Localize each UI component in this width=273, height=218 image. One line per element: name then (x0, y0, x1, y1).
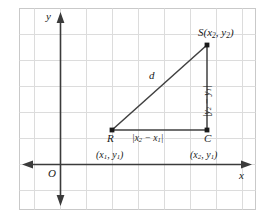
point-C-close: ) (214, 149, 217, 160)
hypotenuse-label-d: d (149, 70, 155, 81)
v-minus: − (202, 96, 212, 107)
point-label-S: S(x2, y2) (198, 27, 234, 39)
point-C-coords: (x2, y1) (190, 150, 217, 161)
v-y2: y (202, 110, 212, 114)
h-minus: − (142, 133, 153, 143)
y-axis-label: y (46, 11, 51, 22)
v-y1: y (202, 92, 212, 96)
v-y2-sub: 2 (205, 107, 212, 110)
point-label-C: C (204, 133, 211, 144)
v-bar-open: | (202, 114, 212, 117)
point-R-coords: (x1, y1) (96, 150, 123, 161)
vertex-dot-S (205, 43, 210, 48)
origin-label: O (48, 168, 56, 179)
v-y1-sub: 1 (205, 88, 212, 91)
x-axis-label: x (239, 170, 244, 181)
point-label-R: R (107, 133, 114, 144)
point-R-close: ) (120, 149, 123, 160)
vertical-side-label: |y2 − y1| (203, 86, 213, 117)
h-bar-close: | (161, 133, 164, 143)
v-bar-close: | (202, 86, 212, 89)
figure-canvas: y x O S(x2, y2) R (x1, y1) C (x2, y1) d … (0, 0, 273, 218)
point-S-close: ) (230, 26, 234, 38)
horizontal-side-label: |x2 − x1| (132, 134, 163, 144)
